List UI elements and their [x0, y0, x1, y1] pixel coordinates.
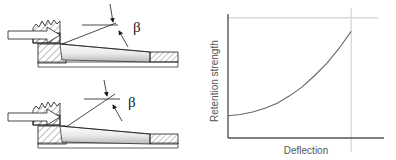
snap-fit-diagrams-svg: β	[0, 0, 198, 160]
snap-fit-diagram-bottom: β	[8, 80, 178, 148]
angle-label-beta-top: β	[133, 19, 141, 35]
angle-construction-top	[62, 23, 118, 44]
retention-strength-chart-panel: Retention strength Deflection	[198, 0, 396, 160]
angle-construction-bottom	[66, 94, 120, 127]
figure-root: β	[0, 0, 396, 160]
cantilever-beam-top	[60, 44, 150, 62]
y-axis-label: Retention strength	[209, 40, 220, 122]
angle-dimension-arrows-top	[110, 4, 128, 47]
x-axis-label: Deflection	[284, 145, 328, 156]
snap-fit-diagrams-panel: β	[0, 0, 198, 160]
retention-strength-chart-svg: Retention strength Deflection	[198, 0, 396, 160]
snap-fit-diagram-top: β	[8, 4, 178, 67]
mating-rail-bottom	[150, 134, 178, 144]
angle-dimension-arrows-bottom	[104, 80, 122, 121]
angle-label-beta-bottom: β	[128, 94, 136, 110]
mating-rail-top	[150, 52, 178, 62]
data-series-retention-strength	[228, 31, 351, 115]
cantilever-beam-bottom	[60, 126, 150, 144]
